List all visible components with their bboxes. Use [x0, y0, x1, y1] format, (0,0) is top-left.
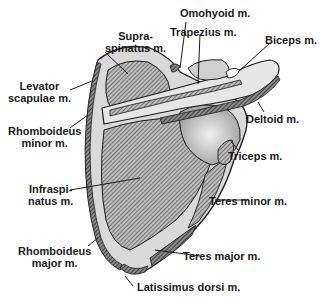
label-rhomboideus-minor: Rhomboideus minor m.	[8, 125, 81, 149]
label-infraspinatus: Infraspi- natus m.	[28, 183, 73, 207]
label-line: spinatus m.	[105, 42, 166, 54]
label-levator-scapulae: Levator scapulae m.	[8, 80, 71, 104]
label-line: natus m.	[28, 195, 73, 207]
coracoid-process	[188, 60, 229, 80]
label-line: Teres major m.	[183, 250, 260, 262]
label-line: scapulae m.	[8, 92, 71, 104]
label-line: Supra-	[105, 30, 166, 42]
label-line: Latissimus dorsi m.	[137, 281, 240, 293]
label-latissimus-dorsi: Latissimus dorsi m.	[137, 281, 240, 293]
label-line: major m.	[18, 257, 91, 269]
label-line: Trapezius m.	[170, 26, 237, 38]
label-line: Omohyoid m.	[180, 7, 250, 19]
label-rhomboideus-major: Rhomboideus major m.	[18, 245, 91, 269]
label-line: Teres minor m.	[209, 195, 287, 207]
label-supraspinatus: Supra- spinatus m.	[105, 30, 166, 54]
label-line: Levator	[8, 80, 71, 92]
label-biceps: Biceps m.	[265, 34, 317, 46]
label-line: Biceps m.	[265, 34, 317, 46]
label-triceps: Triceps m.	[228, 150, 282, 162]
label-omohyoid: Omohyoid m.	[180, 7, 250, 19]
label-line: Deltoid m.	[246, 113, 299, 125]
label-line: Rhomboideus	[18, 245, 91, 257]
label-line: Triceps m.	[228, 150, 282, 162]
label-deltoid: Deltoid m.	[246, 113, 299, 125]
label-teres-major: Teres major m.	[183, 250, 260, 262]
label-trapezius: Trapezius m.	[170, 26, 237, 38]
label-teres-minor: Teres minor m.	[209, 195, 287, 207]
label-line: minor m.	[8, 137, 81, 149]
label-line: Rhomboideus	[8, 125, 81, 137]
label-line: Infraspi-	[28, 183, 73, 195]
